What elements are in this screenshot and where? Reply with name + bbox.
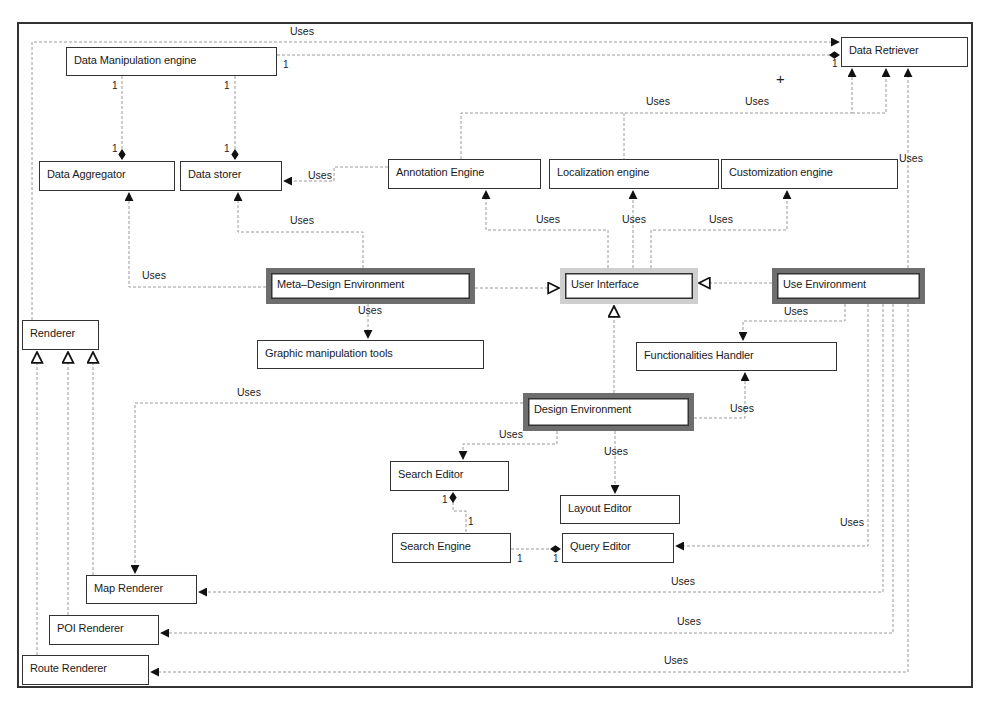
class-label: Localization engine xyxy=(557,166,649,178)
class-map-renderer: Map Renderer xyxy=(86,575,197,604)
class-functionalities-handler: Functionalities Handler xyxy=(636,342,837,371)
multiplicity: 1 xyxy=(517,553,523,564)
class-user-interface: User Interface xyxy=(560,268,698,304)
uses-label: Uses xyxy=(499,428,523,440)
plus-mark: + xyxy=(776,70,785,87)
class-customization-engine: Customization engine xyxy=(721,159,898,189)
multiplicity: 1 xyxy=(832,58,838,69)
uses-label: Uses xyxy=(677,615,701,627)
class-label: Meta–Design Environment xyxy=(277,278,404,290)
class-label: Data Aggregator xyxy=(47,168,126,180)
class-label: Route Renderer xyxy=(30,662,107,674)
class-layout-editor: Layout Editor xyxy=(560,495,680,524)
uses-label: Uses xyxy=(784,305,808,317)
class-label: Graphic manipulation tools xyxy=(265,347,393,359)
uses-label: Uses xyxy=(536,213,560,225)
uses-label: Uses xyxy=(290,25,314,37)
class-meta-design-environment: Meta–Design Environment xyxy=(266,268,475,304)
uses-label: Uses xyxy=(604,445,628,457)
class-design-environment: Design Environment xyxy=(523,393,694,431)
class-data-storer: Data storer xyxy=(180,161,282,191)
uses-label: Uses xyxy=(308,169,332,181)
class-label: Data Manipulation engine xyxy=(74,54,196,66)
uses-label: Uses xyxy=(730,402,754,414)
class-label: User Interface xyxy=(571,278,639,290)
multiplicity: 1 xyxy=(442,494,448,505)
class-annotation-engine: Annotation Engine xyxy=(388,159,541,189)
uses-label: Uses xyxy=(237,386,261,398)
class-use-environment: Use Environment xyxy=(772,268,925,304)
multiplicity: 1 xyxy=(112,143,118,154)
class-label: Use Environment xyxy=(783,278,866,290)
class-data-retriever: Data Retriever xyxy=(841,37,968,67)
class-graphic-manipulation-tools: Graphic manipulation tools xyxy=(257,340,484,369)
uses-label: Uses xyxy=(622,213,646,225)
multiplicity: 1 xyxy=(468,516,474,527)
multiplicity: 1 xyxy=(112,80,118,91)
class-label: Query Editor xyxy=(570,540,631,552)
class-route-renderer: Route Renderer xyxy=(22,655,149,685)
uses-label: Uses xyxy=(671,575,695,587)
class-search-engine: Search Engine xyxy=(392,533,511,563)
class-renderer: Renderer xyxy=(22,320,99,350)
class-data-aggregator: Data Aggregator xyxy=(39,161,175,191)
class-poi-renderer: POI Renderer xyxy=(49,615,159,645)
class-label: POI Renderer xyxy=(57,622,124,634)
class-label: Functionalities Handler xyxy=(644,349,754,361)
uses-label: Uses xyxy=(745,95,769,107)
uml-diagram: Data Manipulation engine Data Retriever … xyxy=(0,0,987,702)
class-label: Search Editor xyxy=(398,468,463,480)
class-data-manipulation-engine: Data Manipulation engine xyxy=(66,47,277,76)
class-label: Annotation Engine xyxy=(396,166,484,178)
uses-label: Uses xyxy=(709,213,733,225)
class-label: Search Engine xyxy=(400,540,471,552)
uses-label: Uses xyxy=(646,95,670,107)
class-label: Layout Editor xyxy=(568,502,632,514)
uses-label: Uses xyxy=(899,152,923,164)
class-label: Design Environment xyxy=(534,403,631,415)
uses-label: Uses xyxy=(840,516,864,528)
multiplicity: 1 xyxy=(224,143,230,154)
class-localization-engine: Localization engine xyxy=(549,159,719,189)
multiplicity: 1 xyxy=(553,553,559,564)
multiplicity: 1 xyxy=(224,80,230,91)
class-label: Customization engine xyxy=(729,166,833,178)
class-query-editor: Query Editor xyxy=(562,533,674,563)
uses-label: Uses xyxy=(358,304,382,316)
class-label: Data Retriever xyxy=(849,44,919,56)
class-label: Renderer xyxy=(30,327,75,339)
class-label: Map Renderer xyxy=(94,582,163,594)
uses-label: Uses xyxy=(142,269,166,281)
class-label: Data storer xyxy=(188,168,241,180)
uses-label: Uses xyxy=(664,654,688,666)
class-search-editor: Search Editor xyxy=(390,461,509,491)
uses-label: Uses xyxy=(290,214,314,226)
multiplicity: 1 xyxy=(283,59,289,70)
